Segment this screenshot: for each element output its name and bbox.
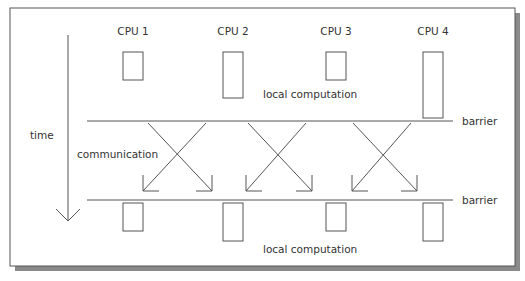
communication-label: communication bbox=[77, 148, 158, 160]
local-computation-label-bottom: local computation bbox=[263, 243, 357, 255]
barrier-label-bottom: barrier bbox=[462, 194, 498, 206]
local-computation-label-top: local computation bbox=[263, 88, 357, 100]
cpu-label-4: CPU 4 bbox=[417, 25, 449, 37]
cpu-label-1: CPU 1 bbox=[117, 25, 148, 37]
frame bbox=[10, 8, 515, 266]
time-label: time bbox=[30, 129, 54, 141]
barrier-label-top: barrier bbox=[462, 115, 498, 127]
cpu-label-2: CPU 2 bbox=[217, 25, 248, 37]
bsp-diagram: time CPU 1 CPU 2 CPU 3 CPU 4 local compu… bbox=[0, 0, 525, 281]
cpu-label-3: CPU 3 bbox=[320, 25, 351, 37]
